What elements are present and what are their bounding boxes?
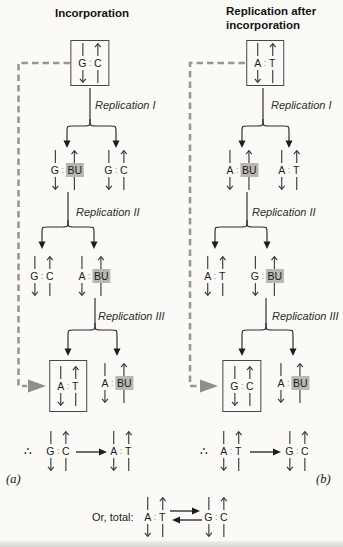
strand-up-arrow-icon — [93, 43, 102, 56]
strand-line-icon — [61, 458, 70, 471]
base-pair-a-l2-gc: G : C — [29, 256, 54, 296]
base-letter: G — [103, 163, 113, 177]
base-pair-a-l3-abu: A : BU — [100, 363, 133, 403]
base-letter-highlighted: BU — [92, 269, 111, 283]
strand-down-arrow-icon — [225, 177, 234, 190]
strand-down-arrow-icon — [56, 393, 65, 406]
strand-line-icon — [276, 363, 285, 376]
hydrogen-bond-colon: : — [57, 446, 60, 456]
base-letter: T — [158, 510, 166, 524]
hydrogen-bond-colon: : — [287, 378, 290, 388]
hydrogen-bond-colon: : — [111, 378, 114, 388]
panel-b-label: (b) — [316, 472, 331, 487]
strand-line-icon — [56, 366, 65, 379]
strand-down-arrow-icon — [219, 458, 228, 471]
base-pair-a-root: G : C — [77, 43, 102, 83]
base-letter: C — [300, 444, 310, 458]
hydrogen-bond-colon: : — [230, 446, 233, 456]
strand-down-arrow-icon — [250, 283, 259, 296]
strand-down-arrow-icon — [30, 283, 39, 296]
base-letter: A — [77, 269, 86, 283]
strand-up-arrow-icon — [120, 363, 129, 376]
strand-up-arrow-icon — [45, 256, 54, 269]
base-letter: G — [284, 444, 294, 458]
base-letter: A — [56, 379, 65, 393]
conclusion-arrow-a — [76, 449, 107, 456]
strand-line-icon — [277, 150, 286, 163]
strand-down-arrow-icon — [100, 390, 109, 403]
base-letter: A — [143, 510, 152, 524]
base-letter-highlighted: BU — [266, 269, 285, 283]
strand-line-icon — [296, 390, 305, 403]
therefore-symbol-a: ∴ — [24, 444, 32, 458]
replication-label-a3: Replication III — [98, 310, 165, 322]
base-letter: G — [203, 510, 213, 524]
hydrogen-bond-colon: : — [236, 165, 239, 175]
strand-up-arrow-icon — [70, 150, 79, 163]
strand-down-arrow-icon — [277, 177, 286, 190]
root-pair-box-b: A : T — [246, 40, 284, 86]
base-letter-highlighted: BU — [115, 376, 134, 390]
base-letter: A — [225, 163, 234, 177]
hydrogen-bond-colon: : — [89, 58, 92, 68]
strand-down-arrow-icon — [50, 177, 59, 190]
scan-edge-band — [0, 541, 343, 547]
base-letter: T — [268, 56, 276, 70]
base-pair-b-l3-gc: G : C — [229, 366, 254, 406]
strand-up-arrow-icon — [219, 497, 228, 510]
base-pair-b-l2-gbu: G : BU — [250, 256, 284, 296]
base-letter: T — [234, 444, 242, 458]
strand-line-icon — [253, 43, 262, 56]
base-pair-b-l1-abu: A : BU — [225, 150, 258, 190]
base-letter: G — [229, 379, 239, 393]
strand-up-arrow-icon — [300, 431, 309, 444]
hydrogen-bond-colon: : — [88, 271, 91, 281]
base-letter-highlighted: BU — [291, 376, 310, 390]
strand-line-icon — [97, 283, 106, 296]
base-pair-a-conclusion-from: G : C — [45, 431, 70, 471]
strand-up-arrow-icon — [234, 431, 243, 444]
strand-up-arrow-icon — [270, 256, 279, 269]
strand-line-icon — [285, 431, 294, 444]
strand-down-arrow-icon — [46, 458, 55, 471]
strand-down-arrow-icon — [143, 524, 152, 537]
hydrogen-bond-colon: : — [215, 512, 218, 522]
base-letter: A — [219, 444, 228, 458]
strand-line-icon — [292, 177, 301, 190]
base-pair-total-at: A : T — [143, 497, 167, 537]
hydrogen-bond-colon: : — [67, 381, 70, 391]
base-letter: G — [50, 163, 60, 177]
strand-down-arrow-icon — [77, 283, 86, 296]
base-letter-highlighted: BU — [66, 163, 85, 177]
strand-line-icon — [204, 497, 213, 510]
strand-up-arrow-icon — [97, 256, 106, 269]
hydrogen-bond-colon: : — [115, 165, 118, 175]
replication-label-a1: Replication I — [95, 99, 156, 111]
base-letter: G — [45, 444, 55, 458]
hydrogen-bond-colon: : — [214, 271, 217, 281]
panel-a-title: Incorporation — [55, 7, 129, 21]
replication-label-a2: Replication II — [76, 206, 140, 218]
strand-line-icon — [245, 393, 254, 406]
base-letter: A — [109, 444, 118, 458]
root-pair-box-a: G : C — [70, 40, 109, 86]
base-letter: T — [218, 269, 226, 283]
strand-line-icon — [45, 283, 54, 296]
base-pair-b-conclusion-from: A : T — [219, 431, 243, 471]
hydrogen-bond-colon: : — [41, 271, 44, 281]
hydrogen-bond-colon: : — [62, 165, 65, 175]
base-letter: C — [93, 56, 103, 70]
base-letter: C — [45, 269, 55, 283]
strand-line-icon — [270, 283, 279, 296]
strand-line-icon — [109, 431, 118, 444]
base-letter: T — [292, 163, 300, 177]
or-total-label: Or, total: — [92, 511, 134, 523]
strand-line-icon — [225, 150, 234, 163]
result-pair-box-b: G : C — [222, 360, 261, 412]
hydrogen-bond-colon: : — [120, 446, 123, 456]
strand-line-icon — [100, 363, 109, 376]
strand-line-icon — [70, 177, 79, 190]
base-letter: C — [119, 163, 129, 177]
strand-line-icon — [124, 458, 133, 471]
conclusion-arrow-b — [250, 449, 281, 456]
